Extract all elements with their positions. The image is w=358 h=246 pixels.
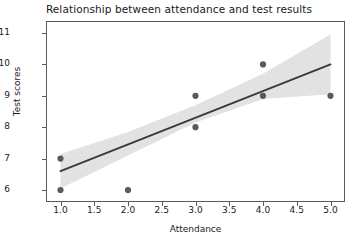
scatter-point bbox=[57, 187, 63, 193]
y-tick-label: 9 bbox=[0, 91, 10, 100]
x-tick-mark bbox=[61, 202, 62, 206]
confidence-band-area bbox=[61, 35, 331, 189]
scatter-point bbox=[57, 156, 63, 162]
x-tick-mark bbox=[331, 202, 332, 206]
scatter-point bbox=[125, 187, 131, 193]
chart-title: Relationship between attendance and test… bbox=[0, 3, 358, 16]
scatter-point bbox=[260, 93, 266, 99]
y-tick-label: 8 bbox=[0, 122, 10, 131]
plot-area bbox=[46, 21, 345, 202]
x-tick-label: 5.0 bbox=[311, 206, 351, 215]
scatter-point bbox=[192, 124, 198, 130]
x-tick-mark bbox=[263, 202, 264, 206]
scatter-point bbox=[260, 61, 266, 67]
x-tick-mark bbox=[196, 202, 197, 206]
scatter-point bbox=[327, 93, 333, 99]
chart-figure: Relationship between attendance and test… bbox=[0, 0, 358, 246]
x-tick-mark bbox=[297, 202, 298, 206]
x-tick-mark bbox=[128, 202, 129, 206]
y-tick-label: 10 bbox=[0, 59, 10, 68]
scatter-point bbox=[192, 93, 198, 99]
x-axis-label: Attendance bbox=[46, 224, 345, 235]
y-axis-label: Test scores bbox=[12, 37, 23, 147]
x-tick-mark bbox=[162, 202, 163, 206]
x-tick-mark bbox=[229, 202, 230, 206]
y-tick-label: 11 bbox=[0, 28, 10, 37]
confidence-band bbox=[61, 35, 331, 189]
x-tick-mark bbox=[94, 202, 95, 206]
y-tick-label: 7 bbox=[0, 154, 10, 163]
regression-line-path bbox=[61, 64, 331, 171]
regression-line bbox=[61, 64, 331, 171]
plot-canvas bbox=[47, 22, 344, 201]
y-tick-label: 6 bbox=[0, 185, 10, 194]
